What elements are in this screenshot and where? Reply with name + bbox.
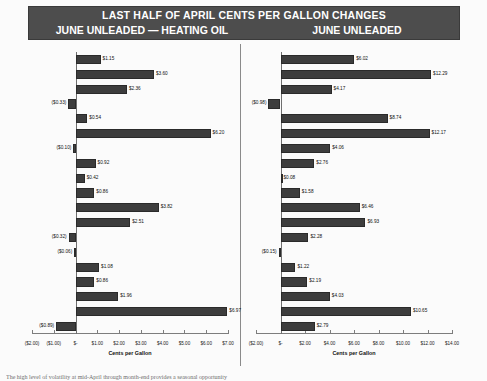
bar xyxy=(76,159,96,168)
x-axis-tick xyxy=(452,330,453,334)
x-axis-tick-label: ($2.00) xyxy=(249,341,264,346)
x-axis-tick xyxy=(141,330,142,334)
bar xyxy=(281,322,315,331)
bar xyxy=(76,85,127,94)
x-axis-tick-label: $5.00 xyxy=(179,341,191,346)
bar xyxy=(281,174,283,183)
bar xyxy=(76,188,95,197)
bar-value-label: $1.08 xyxy=(101,265,113,270)
bar xyxy=(281,70,432,79)
bar xyxy=(281,218,366,227)
x-axis-tick xyxy=(354,330,355,334)
bar xyxy=(268,99,280,108)
x-axis-tick xyxy=(97,330,98,334)
bar xyxy=(76,114,88,123)
bar-value-label: $4.03 xyxy=(332,294,344,299)
bar-value-label: ($0.32) xyxy=(49,235,67,240)
x-axis-tick-label: $3.00 xyxy=(135,341,147,346)
bar-value-label: $2.28 xyxy=(310,235,322,240)
bar-value-label: $4.06 xyxy=(332,146,344,151)
bar xyxy=(76,55,101,64)
bar-value-label: ($0.06) xyxy=(54,250,72,255)
bar xyxy=(76,70,154,79)
bar xyxy=(281,203,360,212)
bar xyxy=(281,55,355,64)
bar xyxy=(281,114,388,123)
bar-value-label: ($0.10) xyxy=(53,146,71,151)
banner-subtitle-right: JUNE UNLEADED xyxy=(257,24,457,36)
chart-panel-right: ($2.00)$-$2.00$4.00$6.00$8.00$10.00$12.0… xyxy=(244,44,485,370)
bar-value-label: $1.22 xyxy=(297,265,309,270)
bar xyxy=(56,322,75,331)
bar-value-label: $8.74 xyxy=(390,116,402,121)
bar xyxy=(76,292,119,301)
bar xyxy=(76,277,95,286)
banner-subtitles: JUNE UNLEADED — HEATING OIL JUNE UNLEADE… xyxy=(29,24,459,38)
x-axis-tick xyxy=(119,330,120,334)
chart-panel-left: ($2.00)($1.00)$-$1.00$2.00$3.00$4.00$5.0… xyxy=(2,44,237,370)
x-axis-tick xyxy=(428,330,429,334)
x-axis-tick-label: $2.00 xyxy=(113,341,125,346)
bar xyxy=(281,188,300,197)
x-axis-tick-label: $6.00 xyxy=(348,341,360,346)
x-axis-tick xyxy=(256,330,257,334)
bar xyxy=(281,144,331,153)
bar xyxy=(68,99,75,108)
x-axis-tick xyxy=(403,330,404,334)
x-axis-tick-label: $14.00 xyxy=(445,341,459,346)
bar-value-label: $0.86 xyxy=(96,279,108,284)
bar-value-label: $6.20 xyxy=(213,131,225,136)
bar-value-label: $6.93 xyxy=(367,220,379,225)
x-axis-tick-label: $4.00 xyxy=(324,341,336,346)
bar xyxy=(281,85,332,94)
bar-value-label: $3.82 xyxy=(161,205,173,210)
x-axis-tick-label: ($1.00) xyxy=(46,341,61,346)
bar-value-label: $12.29 xyxy=(433,72,447,77)
x-axis-tick-label: $2.00 xyxy=(299,341,311,346)
bar xyxy=(76,129,211,138)
bar-value-label: $0.42 xyxy=(87,176,99,181)
bar-value-label: $6.97 xyxy=(229,309,241,314)
x-axis-line xyxy=(32,333,228,334)
bar-value-label: ($0.15) xyxy=(259,250,277,255)
x-axis-tick-label: $12.00 xyxy=(420,341,434,346)
bar xyxy=(69,233,76,242)
x-axis-tick-label: $10.00 xyxy=(396,341,410,346)
bar-value-label: $1.58 xyxy=(302,190,314,195)
x-axis-tick xyxy=(206,330,207,334)
bar-value-label: ($0.89) xyxy=(36,324,54,329)
bar-value-label: $2.51 xyxy=(132,220,144,225)
bar xyxy=(73,144,75,153)
x-axis-tick-label: $7.00 xyxy=(222,341,234,346)
x-axis-tick xyxy=(54,330,55,334)
bar xyxy=(279,248,281,257)
bar-value-label: $12.17 xyxy=(432,131,446,136)
bar-value-label: $1.15 xyxy=(103,57,115,62)
plot-area-right: ($2.00)$-$2.00$4.00$6.00$8.00$10.00$12.0… xyxy=(256,52,452,334)
bar xyxy=(74,248,76,257)
bar-value-label: $0.54 xyxy=(89,116,101,121)
x-axis-tick-label: $1.00 xyxy=(92,341,104,346)
bar xyxy=(281,292,330,301)
panel-divider xyxy=(240,44,241,366)
bar xyxy=(281,233,309,242)
title-banner: LAST HALF OF APRIL CENTS PER GALLON CHAN… xyxy=(28,6,460,40)
x-axis-tick-label: $- xyxy=(74,341,78,346)
x-axis-tick-label: $8.00 xyxy=(373,341,385,346)
footer-note: The high level of volatility at mid-Apri… xyxy=(6,374,481,380)
bar xyxy=(76,307,228,316)
x-axis-title: Cents per Gallon xyxy=(32,350,228,356)
bar-value-label: $0.86 xyxy=(96,190,108,195)
bar-value-label: $3.60 xyxy=(156,72,168,77)
bar xyxy=(281,159,315,168)
bar xyxy=(76,174,85,183)
bar xyxy=(76,218,131,227)
bar-value-label: $0.08 xyxy=(283,176,295,181)
bar xyxy=(281,307,411,316)
x-axis-tick xyxy=(330,330,331,334)
x-axis-tick xyxy=(163,330,164,334)
bar-value-label: $10.65 xyxy=(413,309,427,314)
x-axis-tick xyxy=(184,330,185,334)
bar-value-label: $2.76 xyxy=(316,161,328,166)
bar xyxy=(281,263,296,272)
